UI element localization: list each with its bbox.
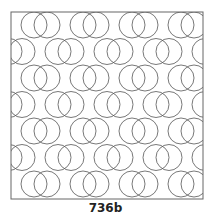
pattern-circle (205, 39, 211, 65)
figure-caption: 736b (0, 201, 211, 215)
pattern-circle (192, 145, 211, 171)
pattern-circle (192, 39, 211, 65)
pattern-circle (192, 92, 211, 118)
pattern-circle (205, 145, 211, 171)
circle-pattern (0, 12, 211, 197)
pattern-circle (205, 92, 211, 118)
quilt-pattern-figure (0, 0, 211, 218)
